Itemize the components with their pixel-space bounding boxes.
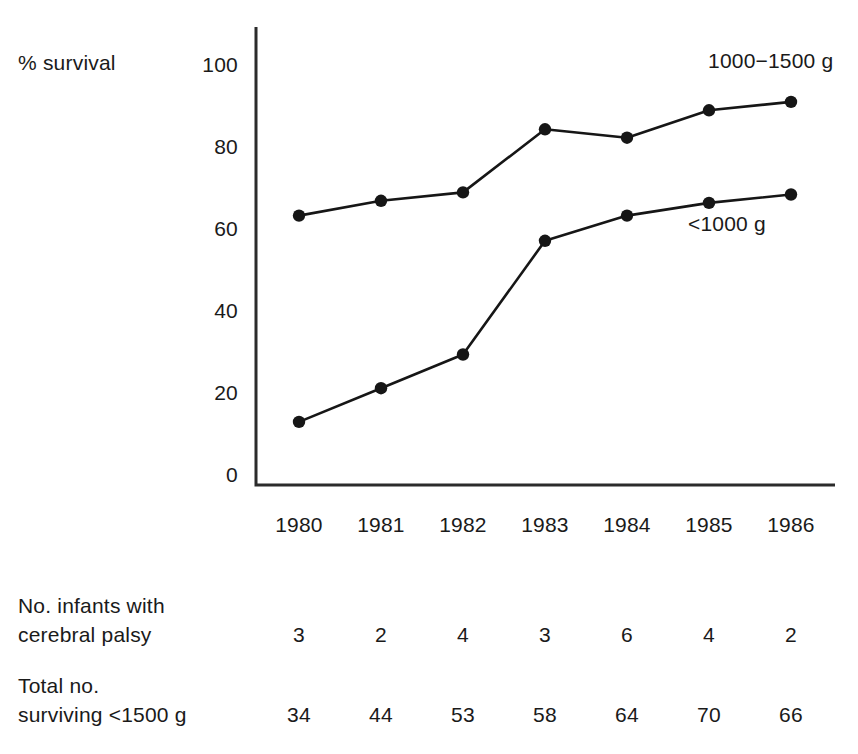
row-values-cerebral-palsy: 3 2 4 3 6 4 2 bbox=[0, 620, 858, 649]
cell-total-surviving-1980: 34 bbox=[259, 700, 339, 729]
x-tick-label-1986: 1986 bbox=[751, 513, 831, 537]
cell-cerebral-palsy-1986: 2 bbox=[751, 620, 831, 649]
cell-cerebral-palsy-1980: 3 bbox=[259, 620, 339, 649]
cell-cerebral-palsy-1981: 2 bbox=[341, 620, 421, 649]
x-tick-label-1981: 1981 bbox=[341, 513, 421, 537]
cell-cerebral-palsy-1985: 4 bbox=[669, 620, 749, 649]
cell-total-surviving-1986: 66 bbox=[751, 700, 831, 729]
x-tick-label-1985: 1985 bbox=[669, 513, 749, 537]
data-point bbox=[539, 123, 551, 135]
x-tick-label-1980: 1980 bbox=[259, 513, 339, 537]
cell-total-surviving-1983: 58 bbox=[505, 700, 585, 729]
cell-total-surviving-1985: 70 bbox=[669, 700, 749, 729]
data-point bbox=[457, 186, 469, 198]
data-point bbox=[703, 104, 715, 116]
data-point bbox=[621, 209, 633, 221]
x-tick-label-1982: 1982 bbox=[423, 513, 503, 537]
data-point bbox=[293, 416, 305, 428]
data-point bbox=[785, 96, 797, 108]
survival-chart-figure: % survival 100 80 60 40 20 0 1000−1500 g… bbox=[0, 0, 858, 754]
series-label-under-1000g: <1000 g bbox=[688, 212, 766, 236]
cell-cerebral-palsy-1983: 3 bbox=[505, 620, 585, 649]
cell-cerebral-palsy-1982: 4 bbox=[423, 620, 503, 649]
data-point bbox=[621, 132, 633, 144]
row-label-line1: Total no. bbox=[18, 674, 99, 697]
data-point bbox=[457, 348, 469, 360]
data-point bbox=[703, 197, 715, 209]
data-point bbox=[293, 209, 305, 221]
axis-lines bbox=[256, 27, 835, 485]
data-point bbox=[539, 235, 551, 247]
cell-total-surviving-1984: 64 bbox=[587, 700, 667, 729]
data-point bbox=[375, 195, 387, 207]
x-tick-label-1984: 1984 bbox=[587, 513, 667, 537]
data-point bbox=[375, 382, 387, 394]
cell-total-surviving-1982: 53 bbox=[423, 700, 503, 729]
series-line-1000-1500g bbox=[299, 102, 791, 216]
row-label-line1: No. infants with bbox=[18, 594, 165, 617]
row-values-total-surviving: 34 44 53 58 64 70 66 bbox=[0, 700, 858, 729]
cell-total-surviving-1981: 44 bbox=[341, 700, 421, 729]
series-label-1000-1500g: 1000−1500 g bbox=[708, 49, 833, 73]
x-tick-label-1983: 1983 bbox=[505, 513, 585, 537]
cell-cerebral-palsy-1984: 6 bbox=[587, 620, 667, 649]
data-point bbox=[785, 188, 797, 200]
